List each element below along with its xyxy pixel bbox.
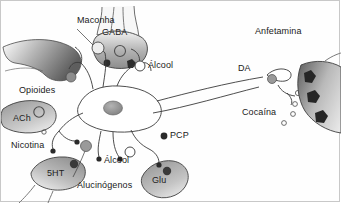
label-ach: ACh [13,114,31,123]
synaptic-vesicle-icon [291,112,296,117]
label-pcp: PCP [170,131,189,140]
maconha-marker-icon [92,42,104,54]
soma-nucleus [104,101,123,115]
label-glu: Glu [152,176,166,185]
dendrite-receptor-dot-icon [74,139,79,144]
label-5ht: 5HT [47,169,64,178]
label-alucinogenos: Alucinógenos [77,181,132,190]
label-gaba: GABA [102,28,127,37]
dendrite-receptor-dot-icon [96,156,101,161]
label-opioides: Opioides [19,86,55,95]
label-alcool-lower: Álcool [104,156,129,165]
label-da: DA [238,64,251,73]
5ht-terminal [19,157,85,203]
dopamine-synapse [267,53,341,133]
label-anfetamina: Anfetamina [255,27,302,36]
alcool-upper-marker-icon [135,61,145,71]
alucinogenos-marker-icon [81,141,92,152]
label-alcool-upper: Álcool [148,61,173,70]
synaptic-vesicle-icon [293,102,298,107]
label-nicotina: Nicotina [11,141,44,150]
pcp-marker-icon [161,133,168,140]
glu-receptor-filled-icon [163,167,171,175]
dendrite-receptor-dot-icon [50,148,55,153]
label-cocaina: Cocaína [242,108,276,117]
label-maconha: Maconha [77,16,115,25]
opioides-marker-icon [66,72,76,82]
5ht-receptor-filled-icon [70,160,78,168]
leader-maconha [77,29,95,47]
synaptic-vesicle-icon [282,121,287,126]
dopamine-vesicle-icon [268,75,277,84]
dendrite-receptor-dot-icon [156,162,161,167]
gaba-receptor-dark-icon [104,60,111,67]
